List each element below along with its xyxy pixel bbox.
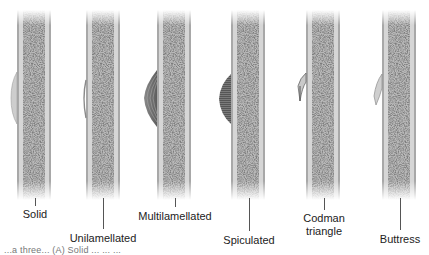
spiculated-reaction bbox=[219, 74, 231, 124]
codman-reaction bbox=[298, 73, 306, 101]
bone-shaft bbox=[17, 10, 51, 200]
label-unilamellated: Unilamellated bbox=[70, 232, 137, 245]
bone-shaft bbox=[306, 10, 340, 200]
unilamellated-reaction bbox=[84, 80, 86, 118]
multilamellated-reaction bbox=[144, 70, 157, 127]
label-solid: Solid bbox=[23, 208, 47, 221]
label-spiculated: Spiculated bbox=[223, 234, 274, 247]
label-buttress: Buttress bbox=[380, 233, 420, 246]
panel-spiculated bbox=[219, 10, 265, 200]
leader-line-multilamellated bbox=[175, 198, 176, 207]
bone-shaft bbox=[157, 10, 191, 200]
panel-buttress bbox=[374, 10, 416, 200]
buttress-reaction bbox=[374, 74, 382, 105]
leader-line-spiculated bbox=[249, 198, 250, 231]
label-codman-line2: triangle bbox=[303, 225, 345, 238]
leader-line-solid bbox=[35, 198, 36, 206]
label-codman-line1: Codman bbox=[303, 212, 345, 225]
panel-multilamellated bbox=[144, 10, 191, 200]
label-codman-triangle: Codman triangle bbox=[303, 212, 345, 238]
bone-shaft bbox=[382, 10, 416, 200]
panel-unilamellated bbox=[84, 10, 120, 200]
leader-line-unilamellated bbox=[103, 198, 104, 229]
panel-solid bbox=[11, 10, 51, 200]
bone-shaft bbox=[231, 10, 265, 200]
bone-shaft bbox=[86, 10, 120, 200]
leader-line-buttress bbox=[400, 198, 401, 230]
label-multilamellated: Multilamellated bbox=[138, 210, 211, 223]
panel-codman-triangle bbox=[298, 10, 340, 200]
leader-line-codman bbox=[324, 198, 325, 210]
caption-fragment: ...a three... (A) Solid ... ... ... bbox=[4, 245, 121, 255]
solid-reaction bbox=[11, 72, 17, 124]
